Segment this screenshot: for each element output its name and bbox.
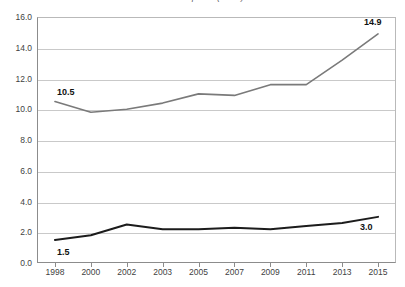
line-chart: at 2007 prices (euros) 0.02.04.06.08.010…	[0, 0, 405, 287]
data-point-label: 1.5	[57, 248, 70, 257]
series-layer	[0, 0, 405, 287]
series-line-upper-series	[55, 34, 378, 112]
series-line-lower-series	[55, 217, 378, 240]
data-point-label: 10.5	[57, 88, 75, 97]
data-point-label: 3.0	[360, 223, 373, 232]
data-point-label: 14.9	[364, 18, 382, 27]
